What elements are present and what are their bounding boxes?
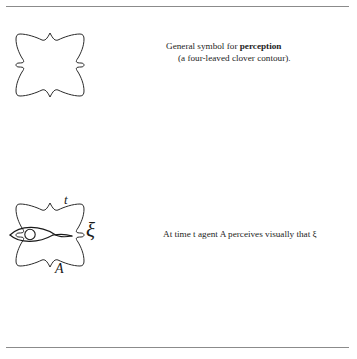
table-row: Auditory perception — [0, 192, 357, 270]
table-row: General symbol for perception (a four-le… — [0, 10, 357, 98]
row-1-line-1: General symbol for perception — [166, 41, 281, 51]
row-1-caption: General symbol for perception (a four-le… — [166, 40, 291, 65]
document-page: General symbol for perception (a four-le… — [0, 0, 357, 359]
four-leaved-clover-contour — [6, 20, 94, 108]
row-1-prefix: General symbol for — [166, 41, 240, 51]
row-1-line-2: (a four-leaved clover contour). — [166, 52, 291, 64]
table-row: Tactile perception — [0, 272, 357, 346]
bottom-rule — [6, 347, 349, 348]
table-row: t ξ A At time t agent A perceives visual… — [0, 96, 357, 190]
row-1-bold-term: perception — [240, 41, 282, 51]
top-rule — [6, 6, 349, 7]
